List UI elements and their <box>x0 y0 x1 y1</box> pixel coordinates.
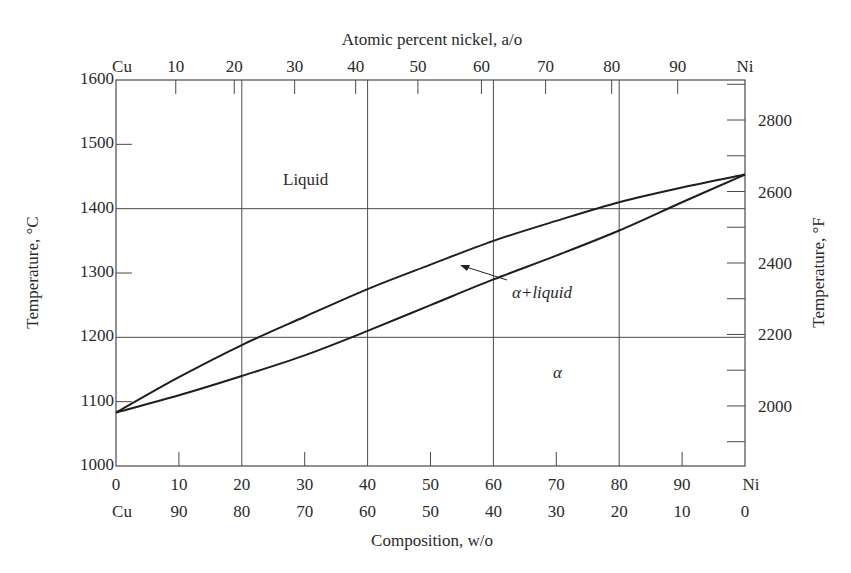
top-tick-label: 40 <box>347 58 364 75</box>
left-tick-label: 1200 <box>80 327 114 344</box>
left-tick-label: 1600 <box>80 70 114 87</box>
bottom-tick-label-cu: 70 <box>296 503 313 520</box>
bottom-tick-label-cu: 50 <box>422 503 439 520</box>
bottom-tick-label-ni: 80 <box>611 476 628 493</box>
bottom-tick-label-cu: 40 <box>485 503 502 520</box>
top-tick-label: Ni <box>737 58 754 75</box>
top-axis-title: Atomic percent nickel, a/o <box>342 31 522 48</box>
left-tick-label: 1300 <box>80 263 114 280</box>
top-tick-label: 80 <box>603 58 620 75</box>
bottom-tick-label-ni: 20 <box>233 476 250 493</box>
bottom-tick-label-ni: 10 <box>170 476 187 493</box>
bottom-tick-label-ni: 90 <box>674 476 691 493</box>
right-tick-label: 2000 <box>758 398 792 415</box>
left-tick-label: 1500 <box>80 134 114 151</box>
bottom-tick-label-cu: 80 <box>233 503 250 520</box>
bottom-tick-label-cu: 60 <box>359 503 376 520</box>
bottom-tick-label-ni: 30 <box>296 476 313 493</box>
top-tick-label: Cu <box>112 58 132 75</box>
bottom-tick-label-ni: Ni <box>743 476 760 493</box>
top-tick-label: 10 <box>167 58 184 75</box>
left-tick-label: 1100 <box>81 392 114 409</box>
bottom-tick-label-cu: 90 <box>170 503 187 520</box>
bottom-tick-label-ni: 50 <box>422 476 439 493</box>
region-label-liquid: Liquid <box>283 171 328 188</box>
liquidus-curve <box>116 175 745 413</box>
bottom-tick-label-cu: 30 <box>548 503 565 520</box>
grid-lines <box>116 80 745 466</box>
solidus-curve <box>116 175 745 413</box>
plot-frame <box>116 80 745 466</box>
bottom-tick-label-ni: 60 <box>485 476 502 493</box>
left-tick-label: 1400 <box>80 199 114 216</box>
right-axis-title: Temperature, °F <box>810 217 827 327</box>
right-tick-label: 2200 <box>758 326 792 343</box>
bottom-tick-label-cu: Cu <box>112 503 132 520</box>
bottom-tick-label-cu: 10 <box>674 503 691 520</box>
bottom-tick-label-cu: 0 <box>741 503 750 520</box>
region-label-alpha: α <box>553 364 562 381</box>
bottom-axis-title: Composition, w/o <box>371 532 493 549</box>
right-tick-label: 2800 <box>758 112 792 129</box>
top-tick-label: 60 <box>473 58 490 75</box>
top-tick-label: 70 <box>537 58 554 75</box>
bottom-tick-label-ni: 70 <box>548 476 565 493</box>
axis-ticks <box>116 80 745 466</box>
bottom-tick-label-cu: 20 <box>611 503 628 520</box>
top-tick-label: 20 <box>226 58 243 75</box>
arrow <box>460 265 507 280</box>
top-tick-label: 90 <box>669 58 686 75</box>
region-label-alpha-liquid: α+liquid <box>512 284 572 301</box>
left-axis-title: Temperature, °C <box>24 216 41 328</box>
top-tick-label: 30 <box>286 58 303 75</box>
bottom-tick-label-ni: 0 <box>112 476 121 493</box>
bottom-tick-label-ni: 40 <box>359 476 376 493</box>
right-tick-label: 2600 <box>758 184 792 201</box>
right-tick-label: 2400 <box>758 255 792 272</box>
left-tick-label: 1000 <box>80 456 114 473</box>
top-tick-label: 50 <box>409 58 426 75</box>
phase-curves <box>116 175 745 413</box>
